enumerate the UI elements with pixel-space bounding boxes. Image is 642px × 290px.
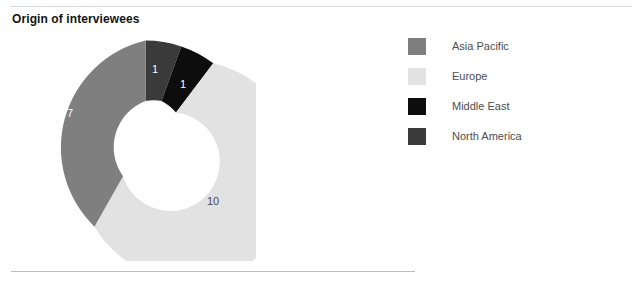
legend-item-north-america[interactable]: North America: [408, 121, 608, 151]
legend-label: Asia Pacific: [452, 40, 509, 52]
slice-label-north-america: 1: [152, 63, 158, 75]
bottom-divider: [11, 271, 415, 272]
legend-label: North America: [452, 130, 522, 142]
legend-label: Europe: [452, 70, 487, 82]
legend-item-asia-pacific[interactable]: Asia Pacific: [408, 31, 608, 61]
page-title: Origin of interviewees: [12, 12, 140, 26]
top-divider: [10, 6, 632, 7]
legend-swatch-icon: [408, 98, 426, 115]
legend-swatch-icon: [408, 68, 426, 85]
slice-label-asia-pacific: 7: [67, 107, 73, 119]
legend-swatch-icon: [408, 38, 426, 55]
legend-item-europe[interactable]: Europe: [408, 61, 608, 91]
donut-chart-svg: 1 1 10 7: [35, 40, 256, 261]
slice-label-middle-east: 1: [180, 78, 186, 90]
legend-swatch-icon: [408, 128, 426, 145]
legend-label: Middle East: [452, 100, 509, 112]
slice-label-europe: 10: [207, 195, 219, 207]
chart-legend: Asia Pacific Europe Middle East North Am…: [408, 31, 608, 151]
donut-chart: 1 1 10 7: [35, 40, 256, 261]
legend-item-middle-east[interactable]: Middle East: [408, 91, 608, 121]
